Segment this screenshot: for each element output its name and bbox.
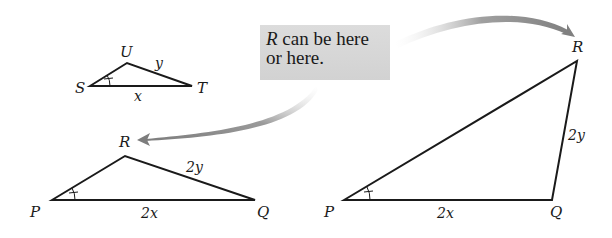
vertex-label-q-right: Q [550,203,562,221]
angle-tick-p-left [69,192,78,193]
arrow-to-right-r [395,16,575,48]
vertex-label-s: S [75,79,85,97]
side-label-2x-left: 2x [140,205,158,221]
arrow-to-left-r [137,86,318,146]
angle-mark-s [107,75,110,86]
vertex-label-p-right: P [323,203,335,221]
callout-var-r: R [266,28,278,49]
angle-tick-s [104,78,113,79]
side-label-2y-right: 2y [567,127,586,143]
callout-line-1-text: can be here [278,28,369,49]
side-label-2y-left: 2y [185,159,204,175]
angle-tick-p-right [364,191,373,192]
vertex-label-r-left: R [118,133,130,151]
callout-box: R can be here or here. [260,25,390,80]
callout-line-1: R can be here [266,29,384,48]
vertex-label-p-left: P [29,203,41,221]
callout-line-2: or here. [266,48,384,67]
left-triangle-prq: P R Q 2y 2x [29,133,269,221]
side-label-y: y [154,55,164,71]
vertex-label-t: T [197,79,208,97]
vertex-label-q-left: Q [257,203,269,221]
vertex-label-r-right: R [571,38,583,56]
angle-mark-p-left [72,188,75,200]
small-triangle-sut: S U T y x [75,43,208,104]
vertex-label-u: U [120,43,134,61]
side-label-2x-right: 2x [436,205,454,221]
angle-mark-p-right [367,187,370,200]
side-label-x: x [134,88,142,104]
